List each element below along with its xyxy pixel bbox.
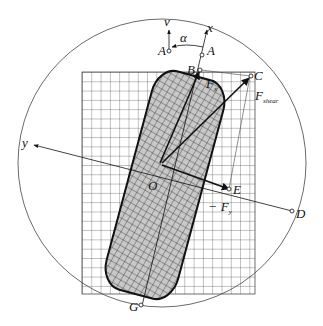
label-A-right: A — [206, 43, 215, 58]
alpha-arc — [172, 45, 203, 47]
tire-force-diagram: v x y α A A B C D E G O Fx Fshear −Fy — [0, 0, 323, 326]
point-E — [227, 187, 231, 191]
point-G — [139, 303, 143, 307]
label-G: G — [129, 299, 139, 314]
point-D — [290, 209, 294, 213]
label-E: E — [232, 182, 241, 197]
label-O: O — [148, 178, 158, 193]
label-fshear: Fshear — [254, 88, 279, 105]
label-y: y — [20, 135, 28, 150]
point-A-left — [167, 49, 171, 53]
label-x: x — [206, 20, 213, 35]
label-alpha: α — [180, 30, 188, 45]
label-B: B — [187, 62, 195, 77]
point-B — [198, 68, 202, 72]
label-A-left: A — [157, 43, 166, 58]
label-C: C — [254, 68, 263, 83]
diagram-canvas: v x y α A A B C D E G O Fx Fshear −Fy — [0, 0, 323, 326]
label-v: v — [164, 14, 170, 29]
point-A-right — [200, 53, 204, 57]
point-C — [249, 74, 253, 78]
label-D: D — [295, 206, 306, 221]
